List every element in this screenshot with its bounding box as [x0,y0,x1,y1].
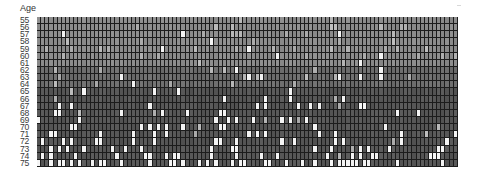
heatmap-cell [454,110,458,117]
heatmap-row [37,46,458,53]
heatmap-cell [454,31,458,38]
heatmap-row [37,96,458,103]
heatmap-cell [454,74,458,81]
heatmap-row [37,17,458,24]
heatmap-cell [454,103,458,110]
heatmap-row [37,74,458,81]
heatmap-row [37,117,458,124]
heatmap-cell [454,131,458,138]
heatmap-cell [454,160,458,167]
heatmap-row [37,124,458,131]
heatmap-row [37,160,458,167]
heatmap-cell [454,153,458,160]
heatmap-cell [454,17,458,24]
heatmap-row [37,153,458,160]
heatmap-cell [454,96,458,103]
heatmap-row [37,38,458,45]
heatmap-row [37,81,458,88]
heatmap-row [37,24,458,31]
heatmap-row [37,103,458,110]
y-axis-title: Age [20,3,36,13]
heatmap-cell [454,124,458,131]
heatmap-cell [454,53,458,60]
heatmap-cell [454,81,458,88]
heatmap-row [37,60,458,67]
heatmap-row [37,146,458,153]
decorative-mark [457,5,461,6]
heatmap-cell [454,60,458,67]
heatmap-cell [454,88,458,95]
heatmap-cell [454,46,458,53]
heatmap-cell [454,38,458,45]
y-tick-label: 75 [20,160,36,167]
heatmap-cell [454,24,458,31]
heatmap-cell [454,146,458,153]
heatmap-row [37,31,458,38]
heatmap-cell [454,138,458,145]
heatmap-row [37,53,458,60]
heatmap-row [37,110,458,117]
heatmap-row [37,131,458,138]
heatmap-cell [454,117,458,124]
heatmap-grid [37,17,458,167]
y-axis-tick-labels: 5556575859606162636465666768697071727374… [20,17,36,167]
heatmap-row [37,67,458,74]
heatmap-row [37,88,458,95]
heatmap-cell [454,67,458,74]
heatmap-row [37,138,458,145]
